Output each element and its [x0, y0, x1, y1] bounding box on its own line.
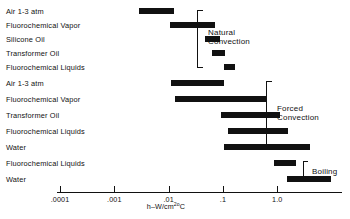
bar-forced-fc-liquids — [228, 128, 287, 134]
group-label-boiling: Boiling — [312, 167, 337, 177]
x-axis-tick-label: .001 — [107, 196, 121, 204]
row-label-forced-transformer-oil: Transformer Oil — [6, 111, 59, 120]
bar-forced-fc-vapor — [175, 96, 267, 102]
x-axis-tick-label: .1 — [220, 196, 226, 204]
group-label-forced-convection-line2: Convection — [277, 113, 319, 123]
bar-boiling-fc-liquids — [274, 160, 296, 166]
row-label-natural-air: Air 1-3 atm — [6, 7, 44, 16]
row-label-boiling-water: Water — [6, 175, 26, 184]
x-axis-tick-label: .0001 — [51, 196, 70, 204]
row-label-boiling-fc-liquids: Fluorochemical Liquids — [6, 159, 85, 168]
bar-natural-air — [139, 8, 174, 14]
row-label-natural-silicone-oil: Silicone Oil — [6, 35, 45, 44]
row-label-forced-fc-vapor: Fluorochemical Vapor — [6, 95, 80, 104]
bar-forced-air — [171, 80, 224, 86]
bracket-boiling — [303, 161, 308, 182]
x-axis-tick — [277, 186, 278, 193]
heat-transfer-coefficient-chart: Air 1-3 atm Fluorochemical Vapor Silicon… — [0, 0, 350, 219]
group-label-natural-convection-line2: Convection — [208, 37, 250, 47]
x-axis-tick — [60, 186, 61, 193]
x-axis-tick — [223, 186, 224, 193]
bar-natural-fc-liquids — [224, 64, 235, 70]
bracket-forced-convection — [266, 81, 272, 148]
row-label-natural-fc-liquids: Fluorochemical Liquids — [6, 63, 85, 72]
bar-boiling-water — [287, 176, 332, 182]
row-label-natural-transformer-oil: Transformer Oil — [6, 49, 59, 58]
row-label-forced-fc-liquids: Fluorochemical Liquids — [6, 127, 85, 136]
row-label-natural-fc-vapor: Fluorochemical Vapor — [6, 21, 80, 30]
x-axis-title: h–W/cm2oC — [147, 203, 185, 211]
row-label-forced-air: Air 1-3 atm — [6, 79, 44, 88]
bar-natural-transformer-oil — [212, 50, 226, 56]
x-axis-tick-label: 1.0 — [272, 196, 282, 204]
x-axis-tick — [114, 186, 115, 193]
row-label-forced-water: Water — [6, 143, 26, 152]
x-axis-line — [57, 192, 342, 193]
x-axis-title-text: h–W/cm2oC — [147, 202, 185, 211]
bracket-natural-convection — [197, 10, 203, 68]
x-axis-tick — [169, 186, 170, 193]
